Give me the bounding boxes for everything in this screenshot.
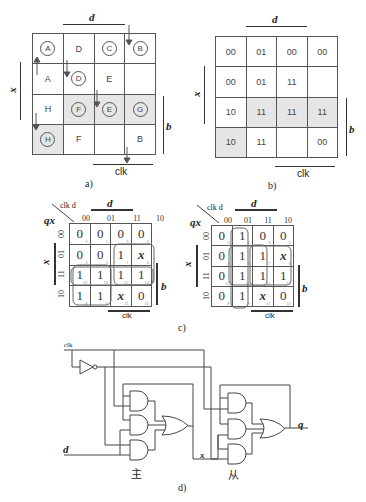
or-gate — [260, 419, 285, 438]
not-gate — [80, 360, 93, 374]
circuit-schematic — [0, 0, 366, 502]
and-gate — [228, 393, 246, 413]
and-gate — [130, 391, 148, 411]
or-gate — [162, 416, 188, 435]
and-gate — [130, 440, 148, 460]
and-gate — [130, 415, 148, 435]
and-gate — [228, 444, 246, 464]
and-gate — [228, 419, 246, 439]
